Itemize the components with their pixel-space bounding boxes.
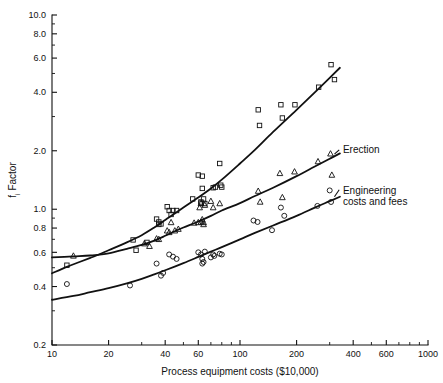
data-point-circle (201, 260, 206, 265)
x-tick-label: 1000 (418, 349, 438, 359)
x-tick-label: 10 (47, 349, 57, 359)
x-tick-label: 200 (289, 349, 304, 359)
series-label-engineering: Engineering (343, 185, 396, 196)
y-tick-label: 2.0 (33, 146, 46, 156)
series-group: Direct materialsErectionEngineeringcosts… (52, 0, 412, 300)
data-point-square (329, 62, 333, 66)
y-tick-label: 8.0 (33, 29, 46, 39)
data-point-triangle (280, 194, 286, 199)
data-point-triangle (168, 219, 174, 224)
series-points-1 (65, 62, 337, 267)
x-axis-tick-labels: 102040601002004006001000 (47, 349, 438, 359)
data-point-triangle (257, 199, 263, 204)
y-tick-label: 0.2 (33, 340, 46, 350)
data-point-triangle (292, 169, 298, 174)
data-point-triangle (255, 188, 261, 193)
data-point-triangle (217, 200, 223, 205)
data-point-square (279, 103, 283, 107)
series-label-engineering-line2: costs and fees (343, 196, 407, 207)
data-point-triangle (277, 170, 283, 175)
series-leader-line-3 (334, 190, 339, 197)
y-tick-label: 0.8 (33, 223, 46, 233)
x-tick-label: 400 (346, 349, 361, 359)
data-point-square (293, 103, 297, 107)
chart-figure: 102040601002004006001000 0.20.40.60.81.0… (0, 0, 443, 383)
x-tick-label: 20 (104, 349, 114, 359)
data-point-circle (154, 261, 159, 266)
svg-text:fi Factor: fi Factor (7, 162, 21, 198)
x-tick-label: 600 (379, 349, 394, 359)
series-points-2 (71, 151, 335, 258)
data-point-circle (270, 228, 275, 233)
x-tick-label: 100 (232, 349, 247, 359)
fit-curve-1 (52, 68, 340, 274)
series-annotations-layer: Direct materialsErectionEngineeringcosts… (334, 0, 412, 207)
data-point-square (200, 186, 204, 190)
y-tick-label: 6.0 (33, 53, 46, 63)
x-tick-label: 40 (160, 349, 170, 359)
data-point-circle (128, 283, 133, 288)
data-point-square (256, 108, 260, 112)
data-point-triangle (329, 172, 335, 177)
y-tick-label: 10.0 (28, 10, 46, 20)
fit-curve-3 (52, 197, 340, 300)
scatter-plot-svg: 102040601002004006001000 0.20.40.60.81.0… (0, 0, 443, 383)
data-point-square (280, 116, 284, 120)
y-tick-label: 0.6 (33, 248, 46, 258)
y-tick-label: 0.4 (33, 282, 46, 292)
y-axis-title: fi Factor (7, 162, 21, 198)
data-point-triangle (210, 204, 216, 209)
data-point-triangle (315, 158, 321, 163)
series-label-2: Erection (343, 144, 380, 155)
fit-curve-2 (52, 153, 340, 257)
data-point-circle (327, 188, 332, 193)
data-point-circle (282, 213, 287, 218)
data-point-circle (278, 205, 283, 210)
data-point-square (134, 248, 138, 252)
data-point-square (332, 77, 336, 81)
y-tick-label: 1.0 (33, 204, 46, 214)
axis-lines (52, 15, 428, 345)
y-axis-tick-labels: 0.20.40.60.81.02.04.06.08.010.0 (28, 10, 46, 350)
data-point-square (257, 123, 261, 127)
y-axis-major-ticks (52, 15, 57, 345)
data-point-triangle (208, 198, 214, 203)
x-tick-label: 60 (193, 349, 203, 359)
data-point-triangle (328, 151, 334, 156)
y-tick-label: 4.0 (33, 87, 46, 97)
data-point-circle (64, 282, 69, 287)
data-point-square (218, 161, 222, 165)
x-axis-title: Process equipment costs ($10,000) (161, 366, 318, 377)
